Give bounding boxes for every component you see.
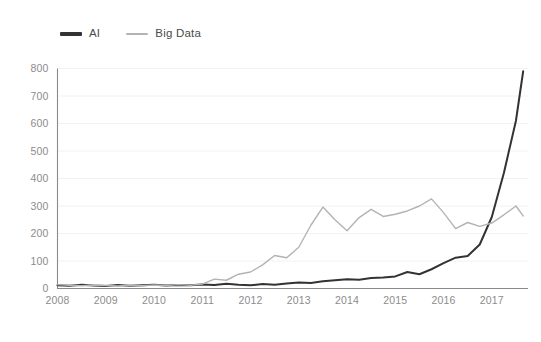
- y-axis-tick-label: 700: [30, 90, 48, 102]
- y-axis-tick-label: 100: [30, 255, 48, 267]
- x-axis-tick-label: 2011: [191, 294, 214, 306]
- y-axis-tick-label: 800: [30, 62, 48, 74]
- x-axis-tick-label: 2017: [480, 294, 504, 306]
- y-axis-tick-label: 500: [30, 145, 48, 157]
- x-axis-tick-label: 2014: [335, 294, 359, 306]
- x-axis-tick-label: 2013: [287, 294, 311, 306]
- x-axis-tick-labels: 2008200920102011201220132014201520162017: [45, 294, 503, 306]
- x-axis-tick-label: 2010: [142, 294, 166, 306]
- y-axis-tick-label: 600: [30, 117, 48, 129]
- plot-area: 0100200300400500600700800 20082009201020…: [0, 0, 541, 342]
- y-axis-tick-labels: 0100200300400500600700800: [30, 62, 48, 294]
- y-axis-tick-label: 400: [30, 172, 48, 184]
- y-axis-tick-label: 300: [30, 200, 48, 212]
- gridlines: [58, 69, 529, 262]
- x-axis-tick-label: 2016: [431, 294, 455, 306]
- x-axis-tick-label: 2008: [45, 294, 69, 306]
- line-chart: AI Big Data 0100200300400500600700800 20…: [0, 0, 541, 342]
- x-axis-tick-label: 2009: [94, 294, 118, 306]
- y-axis-tick-label: 0: [42, 282, 48, 294]
- x-axis-tick-label: 2015: [383, 294, 407, 306]
- x-axis-tick-label: 2012: [238, 294, 262, 306]
- y-axis-tick-label: 200: [30, 227, 48, 239]
- series-line-big-data: [58, 199, 524, 286]
